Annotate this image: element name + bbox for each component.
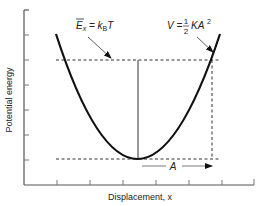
fraction-numerator: 1 <box>184 17 189 26</box>
x-ticks <box>57 179 254 185</box>
potential-annotation: V = 1 2 KA 2 <box>167 17 213 52</box>
mean-energy-equals: = k <box>86 20 103 31</box>
x-axis-label: Displacement, x <box>108 192 173 202</box>
potential-lhs: V = <box>167 20 182 31</box>
mean-energy-annotation: Ex = kBT <box>76 19 114 58</box>
svg-text:Ex = kBT: Ex = kBT <box>76 20 114 32</box>
potential-rhs: KA <box>191 20 205 31</box>
potential-pointer <box>197 37 213 52</box>
amplitude-label: A <box>169 161 177 172</box>
fraction-denominator: 2 <box>184 27 189 36</box>
mean-energy-pointer <box>88 37 111 58</box>
y-ticks <box>24 35 29 160</box>
temperature-symbol: T <box>107 20 114 31</box>
y-axis-label: Potential energy <box>4 67 14 133</box>
potential-energy-diagram: A Ex = kBT V = 1 2 KA 2 Potential energy… <box>0 0 261 206</box>
potential-exponent: 2 <box>207 18 211 25</box>
